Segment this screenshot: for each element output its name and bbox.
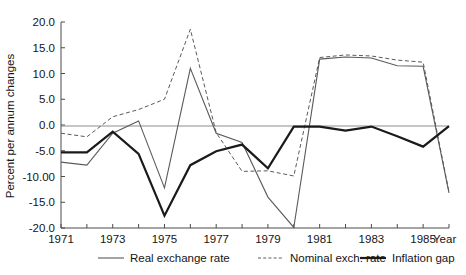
- x-tick-label: 1973: [100, 233, 126, 245]
- plot-area: Percent per annum changes 20.015.010.05.…: [0, 0, 466, 275]
- y-axis-title: Percent per annum changes: [4, 54, 16, 199]
- x-tick-label: 1983: [359, 233, 385, 245]
- legend-label: Inflation gap: [392, 252, 455, 264]
- exchange-rate-line-chart: Percent per annum changes 20.015.010.05.…: [0, 0, 466, 275]
- legend-label: Real exchange rate: [130, 252, 230, 264]
- y-tick-label: -10.00: [22, 171, 55, 183]
- x-tick-label: 1971: [48, 233, 74, 245]
- y-tick-label: 20.0: [33, 16, 55, 28]
- y-tick-label: 0.0: [39, 119, 55, 131]
- x-tick-label: 1981: [307, 233, 333, 245]
- x-tick-label: 1975: [152, 233, 178, 245]
- y-tick-label: -15.0: [29, 196, 55, 208]
- x-tick-label: 1979: [255, 233, 281, 245]
- x-axis-title-text: Year: [433, 233, 456, 245]
- x-tick-label: 1977: [203, 233, 229, 245]
- y-tick-label: -5.0: [35, 145, 55, 157]
- y-tick-label: 5.0: [39, 93, 55, 105]
- y-tick-label: 10.0: [33, 68, 55, 80]
- y-axis-title-text: Percent per annum changes: [4, 54, 16, 199]
- y-tick-label: 15.0: [33, 42, 55, 54]
